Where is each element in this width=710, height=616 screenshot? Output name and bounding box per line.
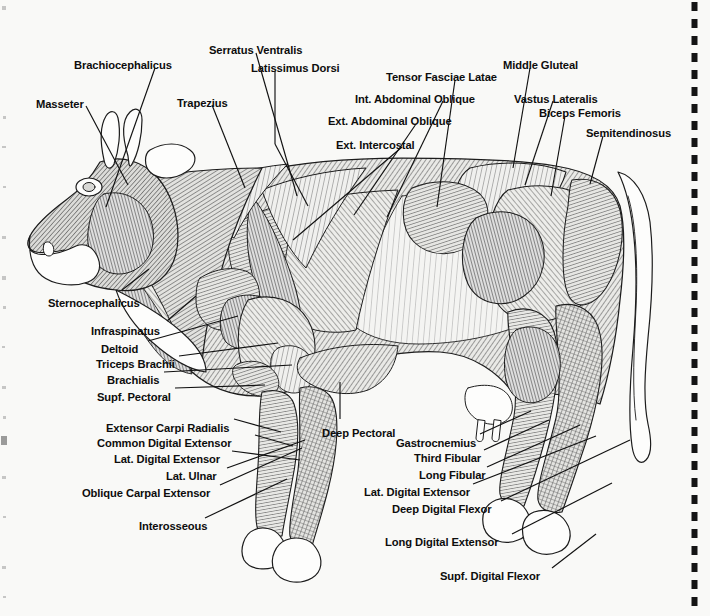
muscle-label-serratus_ventralis: Serratus Ventralis	[209, 45, 302, 56]
muscle-label-lat_ulnar: Lat. Ulnar	[166, 471, 217, 482]
muscle-label-ext_intercostal: Ext. Intercostal	[336, 140, 415, 151]
muscle-label-lat_digital_extensor_fore: Lat. Digital Extensor	[114, 454, 220, 465]
muscle-label-common_digital_extensor: Common Digital Extensor	[97, 438, 231, 449]
muscle-label-supf_pectoral: Supf. Pectoral	[97, 392, 171, 403]
muscle-label-masseter: Masseter	[36, 99, 84, 110]
muscle-label-brachialis: Brachialis	[107, 375, 159, 386]
hoof-fore-far	[272, 538, 321, 582]
muscle-label-int_abdominal_oblique: Int. Abdominal Oblique	[355, 94, 475, 105]
anatomy-diagram-page: MasseterBrachiocephalicusTrapeziusSerrat…	[0, 0, 710, 616]
gastrocnemius-muscle	[504, 327, 560, 403]
muscle-label-trapezius: Trapezius	[177, 98, 228, 109]
vastus-lateralis-muscle	[462, 212, 544, 304]
muscle-label-latissimus_dorsi: Latissimus Dorsi	[251, 63, 340, 74]
muscle-label-deep_digital_flexor: Deep Digital Flexor	[392, 504, 491, 515]
teat-b	[492, 420, 501, 442]
nostril	[43, 242, 54, 256]
leader-line-semitendinosus	[590, 136, 603, 184]
muscle-label-oblique_carpal_extensor: Oblique Carpal Extensor	[82, 488, 210, 499]
muscle-label-triceps_brachii: Triceps Brachii	[96, 359, 175, 370]
leader-line-middle_gluteal	[513, 68, 530, 168]
muscle-label-vastus_lateralis: Vastus Lateralis	[514, 94, 598, 105]
muscle-label-supf_digital_flexor: Supf. Digital Flexor	[440, 571, 540, 582]
page-perforation-strip	[691, 0, 698, 616]
muscle-label-third_fibular: Third Fibular	[414, 453, 481, 464]
udder	[465, 385, 512, 424]
muscle-label-deltoid: Deltoid	[101, 344, 138, 355]
muscle-label-semitendinosus: Semitendinosus	[586, 128, 671, 139]
pupil	[83, 183, 95, 192]
scan-edge-artifacts	[0, 0, 14, 616]
muscle-label-biceps_femoris: Biceps Femoris	[539, 108, 621, 119]
muscle-label-deep_pectoral: Deep Pectoral	[322, 428, 395, 439]
muscle-label-tensor_fasciae_latae: Tensor Fasciae Latae	[386, 72, 497, 83]
muscle-label-extensor_carpi_radialis: Extensor Carpi Radialis	[106, 423, 229, 434]
muscle-label-gastrocnemius: Gastrocnemius	[396, 438, 476, 449]
foreleg-far	[290, 387, 337, 547]
teat-a	[476, 420, 485, 442]
tail	[618, 172, 652, 462]
horn-right	[124, 109, 142, 166]
muscle-label-middle_gluteal: Middle Gluteal	[503, 60, 578, 71]
muscle-label-brachiocephalicus: Brachiocephalicus	[74, 60, 172, 71]
muscle-label-infraspinatus: Infraspinatus	[91, 326, 160, 337]
muscle-label-long_digital_extensor: Long Digital Extensor	[385, 537, 499, 548]
muscle-label-sternocephalicus: Sternocephalicus	[48, 298, 140, 309]
muscle-label-ext_abdominal_oblique: Ext. Abdominal Oblique	[328, 116, 452, 127]
muscle-label-interosseous: Interosseous	[139, 521, 207, 532]
muscle-label-lat_digital_extensor_hind: Lat. Digital Extensor	[364, 487, 470, 498]
muscle-label-long_fibular: Long Fibular	[419, 470, 486, 481]
